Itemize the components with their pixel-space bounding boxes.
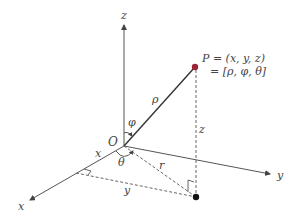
y-axis xyxy=(124,146,270,174)
point-label-line2: = [ρ, φ, θ] xyxy=(210,66,266,77)
diagram-canvas xyxy=(0,0,294,219)
r-label: r xyxy=(159,160,164,171)
rho-segment xyxy=(124,67,195,146)
y-axis-label: y xyxy=(277,170,283,181)
projection-point xyxy=(193,194,199,200)
phi-arc xyxy=(124,132,132,136)
right-angle-marker-x xyxy=(84,169,91,175)
rho-label: ρ xyxy=(152,94,158,105)
z-axis-label: z xyxy=(121,10,127,21)
z-height-label: z xyxy=(199,124,205,135)
x-component-label: x xyxy=(95,148,101,159)
y-component-dashed xyxy=(76,173,196,197)
spherical-coordinates-diagram: z y x O P = (x, y, z) = [ρ, φ, θ] ρ φ θ … xyxy=(0,0,294,219)
point-label-line1: P = (x, y, z) xyxy=(202,53,265,64)
right-angle-marker-proj xyxy=(188,180,194,192)
point-p xyxy=(192,64,198,70)
phi-label: φ xyxy=(128,117,136,128)
y-component-label: y xyxy=(124,185,130,196)
origin-label: O xyxy=(108,136,118,148)
theta-label: θ xyxy=(118,157,125,168)
x-axis-label: x xyxy=(18,201,24,212)
